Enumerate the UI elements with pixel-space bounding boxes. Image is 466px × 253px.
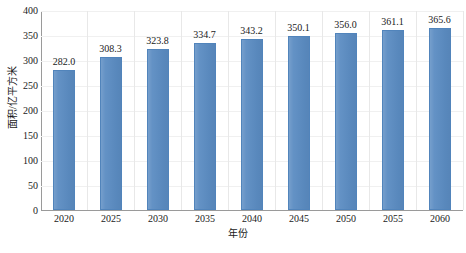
y-tick-label: 0 xyxy=(33,206,38,216)
y-tick-label: 50 xyxy=(28,181,38,191)
y-tick-label: 150 xyxy=(23,131,38,141)
x-tick-label: 2055 xyxy=(383,213,403,224)
bar-value-label: 365.6 xyxy=(428,15,451,25)
bar-value-label: 361.1 xyxy=(381,17,404,27)
y-tick-label: 350 xyxy=(23,31,38,41)
bar[interactable] xyxy=(53,70,75,210)
x-tick-label: 2020 xyxy=(54,213,74,224)
y-tick-label: 300 xyxy=(23,56,38,66)
bar-value-label: 323.8 xyxy=(146,36,169,46)
bar-value-label: 282.0 xyxy=(53,57,76,67)
bar-value-label: 334.7 xyxy=(193,30,216,40)
bar-column[interactable] xyxy=(369,11,416,210)
x-axis-title: 年份 xyxy=(228,228,248,239)
bar[interactable] xyxy=(429,28,451,210)
bar-column[interactable] xyxy=(87,11,134,210)
x-tick-label: 2060 xyxy=(430,213,450,224)
y-axis-title: 面积/亿平方米 xyxy=(7,43,18,153)
bar-column[interactable] xyxy=(416,11,463,210)
bar-column[interactable] xyxy=(322,11,369,210)
plot-area: 282.0 308.3 323.8 334.7 343.2 350.1 356.… xyxy=(41,11,463,210)
x-axis-line xyxy=(41,210,463,211)
y-tick-label: 100 xyxy=(23,156,38,166)
bar-column[interactable] xyxy=(228,11,275,210)
bar[interactable] xyxy=(288,36,310,210)
bar-value-label: 350.1 xyxy=(287,23,310,33)
x-tick-label: 2040 xyxy=(242,213,262,224)
bar[interactable] xyxy=(382,30,404,210)
bar[interactable] xyxy=(100,57,122,210)
bar-chart: 400 350 300 250 200 150 100 50 0 面积/亿平方米 xyxy=(0,0,466,253)
bar-column[interactable] xyxy=(41,11,87,210)
bar-column[interactable] xyxy=(181,11,228,210)
x-tick-label: 2045 xyxy=(289,213,309,224)
bar[interactable] xyxy=(241,39,263,210)
bar[interactable] xyxy=(335,33,357,210)
bar[interactable] xyxy=(147,49,169,210)
y-tick-label: 200 xyxy=(23,106,38,116)
x-tick-label: 2030 xyxy=(148,213,168,224)
bar-value-label: 308.3 xyxy=(99,44,122,54)
y-tick-label: 400 xyxy=(23,6,38,16)
y-tick-label: 250 xyxy=(23,81,38,91)
x-tick-label: 2035 xyxy=(195,213,215,224)
bar-value-label: 356.0 xyxy=(334,20,357,30)
bar[interactable] xyxy=(194,43,216,210)
bar-value-label: 343.2 xyxy=(240,26,263,36)
x-tick-label: 2050 xyxy=(336,213,356,224)
gridline-vertical xyxy=(463,11,464,210)
x-tick-label: 2025 xyxy=(101,213,121,224)
bar-column[interactable] xyxy=(275,11,322,210)
